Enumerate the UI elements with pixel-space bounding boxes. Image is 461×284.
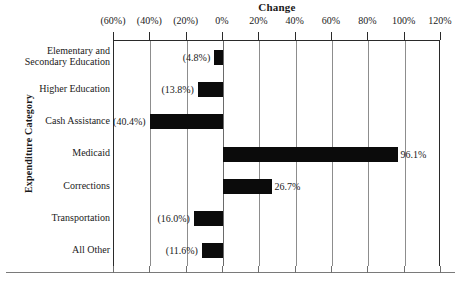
- bar-value-label: 26.7%: [275, 179, 301, 194]
- y-axis-category-label: Medicaid: [2, 147, 110, 159]
- x-axis-tick-mark-bottom: [149, 266, 150, 273]
- footer-divider: [6, 272, 455, 273]
- y-axis-category-label: Transportation: [2, 212, 110, 224]
- x-axis-tick-mark-bottom: [404, 266, 405, 273]
- x-axis-tick-mark: [331, 32, 332, 40]
- x-axis-tick-mark: [186, 32, 187, 40]
- bar: [198, 82, 223, 97]
- bar-value-label: (13.8%): [161, 82, 194, 97]
- bar-value-label: (4.8%): [183, 50, 211, 65]
- gridline: [187, 41, 188, 266]
- x-axis-tick-mark-bottom: [186, 266, 187, 273]
- x-axis-tick-mark-bottom: [440, 266, 441, 273]
- x-axis-tick-mark: [295, 32, 296, 40]
- y-axis-category-label: Elementary andSecondary Education: [2, 45, 110, 68]
- x-axis-tick-mark-bottom: [258, 266, 259, 273]
- chart-figure: Change (60%)(40%)(20%)0%20%40%60%80%100%…: [0, 0, 461, 284]
- x-axis-tick-mark-bottom: [113, 266, 114, 273]
- y-axis-category-label: Higher Education: [2, 83, 110, 95]
- y-axis-category-labels: Elementary andSecondary EducationHigher …: [0, 40, 110, 266]
- gridline: [150, 41, 151, 266]
- y-axis-category-label-line: Elementary and: [2, 45, 110, 57]
- bar-value-label: (16.0%): [157, 211, 190, 226]
- chart-title: Change: [113, 1, 441, 13]
- x-axis-tick-mark: [404, 32, 405, 40]
- bar: [223, 179, 272, 194]
- bar-value-label: (40.4%): [113, 114, 146, 129]
- x-axis-tick-mark-bottom: [295, 266, 296, 273]
- x-axis-tick-mark: [440, 32, 441, 40]
- bar: [214, 50, 223, 65]
- bar: [202, 243, 223, 258]
- x-axis-tick-mark: [113, 32, 114, 40]
- x-axis-tick-mark-bottom: [331, 266, 332, 273]
- y-axis-category-label: Cash Assistance: [2, 115, 110, 127]
- y-axis-category-label: All Other: [2, 244, 110, 256]
- bar-value-label: 96.1%: [401, 147, 427, 162]
- bar: [150, 114, 223, 129]
- y-axis-category-label: Corrections: [2, 180, 110, 192]
- x-axis-tick-label: 120%: [410, 15, 461, 27]
- plot-area: (4.8%)(13.8%)(40.4%)96.1%26.7%(16.0%)(11…: [113, 40, 440, 266]
- x-axis-tick-mark: [258, 32, 259, 40]
- x-axis-tick-mark: [222, 32, 223, 40]
- y-axis-category-label-line: Secondary Education: [2, 56, 110, 68]
- bar: [194, 211, 223, 226]
- x-axis-tick-mark: [149, 32, 150, 40]
- x-axis-tick-mark: [367, 32, 368, 40]
- bar: [223, 147, 398, 162]
- bar-value-label: (11.6%): [166, 243, 198, 258]
- x-axis-tick-labels: (60%)(40%)(20%)0%20%40%60%80%100%120%: [0, 15, 461, 29]
- x-axis-tick-mark-bottom: [367, 266, 368, 273]
- x-axis-tick-mark-bottom: [222, 266, 223, 273]
